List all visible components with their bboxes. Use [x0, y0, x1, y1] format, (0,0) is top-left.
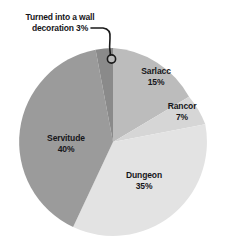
pie-chart-svg	[0, 0, 225, 241]
pie-chart: Turned into a wall decoration 3% Sarlacc…	[0, 0, 225, 241]
callout-marker-icon	[107, 55, 115, 63]
